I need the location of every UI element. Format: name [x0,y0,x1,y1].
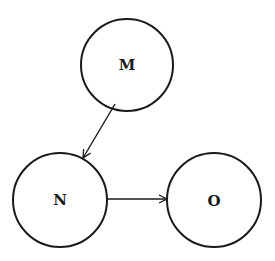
edge-m-to-n-arrow [83,104,115,158]
node-m-label: M [119,56,136,74]
node-o-label: O [207,192,220,210]
node-n-label: N [53,191,67,209]
node-n: N [13,153,107,247]
node-o: O [167,153,261,247]
node-m: M [81,19,173,111]
graph-diagram: M N O [0,0,275,261]
